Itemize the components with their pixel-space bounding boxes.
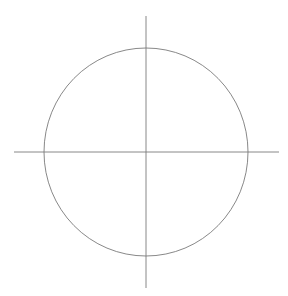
diagram-canvas	[0, 0, 288, 296]
